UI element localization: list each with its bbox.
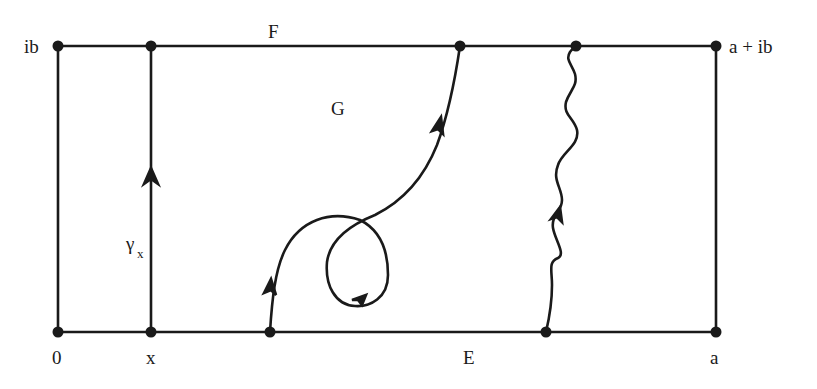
label-G: G	[331, 98, 345, 119]
rectangle	[58, 46, 716, 332]
vertex-0	[53, 327, 64, 338]
vertices	[53, 41, 722, 338]
arrow-up-icon	[432, 117, 443, 134]
vertex-loop-start	[265, 327, 276, 338]
label-ib: ib	[24, 36, 39, 57]
vertex-ib	[53, 41, 64, 52]
label-gamma-subscript: x	[137, 246, 144, 261]
wavy-path	[546, 46, 577, 332]
vertex-wavy-start	[541, 327, 552, 338]
vertex-wavy-end	[571, 41, 582, 52]
vertex-loop-end	[455, 41, 466, 52]
vertex-x	[146, 327, 157, 338]
label-0: 0	[52, 347, 62, 368]
label-x: x	[146, 347, 156, 368]
label-E: E	[463, 347, 475, 368]
label-a: a	[710, 347, 719, 368]
arrow-up-icon	[551, 207, 562, 222]
vertex-a	[711, 327, 722, 338]
label-F: F	[268, 21, 279, 42]
label-gamma: γ	[125, 233, 134, 254]
vertex-a-ib	[711, 41, 722, 52]
label-a-plus-ib: a + ib	[729, 36, 772, 57]
vertex-x-ib	[146, 41, 157, 52]
diagram-canvas: ib F G a + ib 0 x E a γ x	[0, 0, 817, 389]
arrow-left-icon	[352, 295, 366, 305]
gamma-x-path	[144, 46, 158, 332]
looping-path	[264, 46, 460, 332]
